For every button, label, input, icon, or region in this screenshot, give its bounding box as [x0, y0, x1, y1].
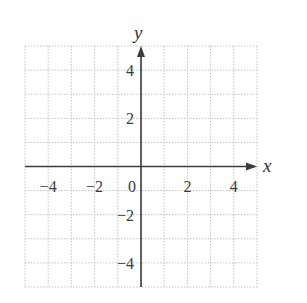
- x-tick-label: 0: [128, 178, 136, 195]
- x-tick-label: 4: [230, 178, 238, 195]
- y-axis-arrow-icon: [137, 46, 145, 57]
- coordinate-plane: −4−202442−2−4 x y: [0, 0, 307, 303]
- axes: [25, 46, 257, 287]
- y-axis-label: y: [132, 22, 143, 43]
- x-axis-arrow-icon: [246, 163, 257, 171]
- y-tick-label: 2: [126, 110, 134, 127]
- x-tick-label: 2: [183, 178, 191, 195]
- x-axis-label: x: [262, 155, 272, 176]
- x-tick-label: −4: [40, 178, 57, 195]
- y-tick-label: 4: [126, 62, 134, 79]
- y-tick-label: −2: [117, 207, 134, 224]
- y-tick-label: −4: [117, 255, 134, 272]
- x-tick-label: −2: [86, 178, 103, 195]
